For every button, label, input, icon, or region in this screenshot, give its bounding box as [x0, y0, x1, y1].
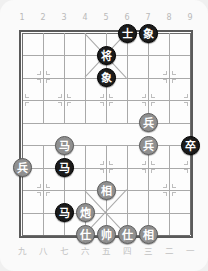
file-line-6-lower: [127, 145, 128, 235]
file-label-top-7: 7: [140, 11, 156, 25]
piece-red-p6[interactable]: 马: [55, 136, 74, 155]
piece-red-p7[interactable]: 兵: [139, 136, 158, 155]
file-label-bottom-9: 一: [182, 244, 198, 258]
file-label-bottom-2: 八: [35, 244, 51, 258]
piece-black-p2[interactable]: 象: [139, 24, 158, 43]
file-label-bottom-1: 九: [14, 244, 30, 258]
piece-red-p13[interactable]: 炮: [76, 203, 95, 222]
file-line-8-lower: [169, 145, 170, 235]
piece-black-p8[interactable]: 卒: [181, 136, 200, 155]
xiangqi-board[interactable]: 士象将象兵马兵卒兵马相马炮仕帅仕相: [22, 33, 190, 235]
piece-black-p1[interactable]: 士: [118, 24, 137, 43]
piece-red-p15[interactable]: 帅: [97, 225, 116, 244]
piece-black-p10[interactable]: 马: [55, 158, 74, 177]
file-label-top-4: 4: [77, 11, 93, 25]
file-line-2-lower: [43, 145, 44, 235]
file-label-bottom-7: 三: [140, 244, 156, 258]
rank-line-4: [22, 123, 190, 124]
file-labels-top: 123456789: [0, 11, 208, 25]
file-label-bottom-4: 六: [77, 244, 93, 258]
file-label-top-1: 1: [14, 11, 30, 25]
piece-black-p3[interactable]: 将: [97, 46, 116, 65]
file-label-bottom-6: 四: [119, 244, 135, 258]
file-line-7-upper: [148, 33, 149, 123]
piece-red-p5[interactable]: 兵: [139, 113, 158, 132]
piece-black-p12[interactable]: 马: [55, 203, 74, 222]
file-line-8-upper: [169, 33, 170, 123]
piece-red-p16[interactable]: 仕: [118, 225, 137, 244]
file-line-2-upper: [43, 33, 44, 123]
piece-red-p9[interactable]: 兵: [13, 158, 32, 177]
xiangqi-app: 123456789 士象将象兵马兵卒兵马相马炮仕帅仕相 九八七六五四三二一: [0, 0, 208, 271]
file-label-bottom-5: 五: [98, 244, 114, 258]
file-line-6-upper: [127, 33, 128, 123]
file-label-top-9: 9: [182, 11, 198, 25]
file-labels-bottom: 九八七六五四三二一: [0, 244, 208, 258]
file-line-7-lower: [148, 145, 149, 235]
piece-red-p17[interactable]: 相: [139, 225, 158, 244]
file-label-top-8: 8: [161, 11, 177, 25]
file-line-9: [190, 33, 191, 235]
file-label-top-3: 3: [56, 11, 72, 25]
file-label-bottom-8: 二: [161, 244, 177, 258]
file-line-3-upper: [64, 33, 65, 123]
file-line-1: [22, 33, 23, 235]
file-label-top-2: 2: [35, 11, 51, 25]
file-label-bottom-3: 七: [56, 244, 72, 258]
file-label-top-5: 5: [98, 11, 114, 25]
file-line-4-upper: [85, 33, 86, 123]
piece-red-p14[interactable]: 仕: [76, 225, 95, 244]
file-label-top-6: 6: [119, 11, 135, 25]
piece-red-p11[interactable]: 相: [97, 181, 116, 200]
piece-black-p4[interactable]: 象: [97, 68, 116, 87]
